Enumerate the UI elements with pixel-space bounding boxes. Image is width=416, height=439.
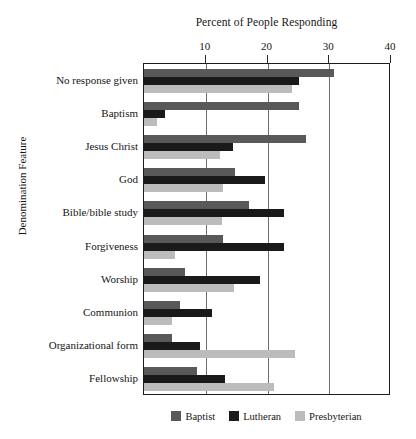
legend-swatch-icon <box>229 411 239 421</box>
x-tick-mark-20 <box>267 55 268 63</box>
bar-group <box>144 168 389 192</box>
bar-group <box>144 201 389 225</box>
bar-baptist <box>144 69 334 77</box>
bar-presbyterian <box>144 184 223 192</box>
plot-inner <box>144 64 389 394</box>
bar-chart-figure: Percent of People Responding 10203040 No… <box>0 0 416 439</box>
bar-baptist <box>144 168 235 176</box>
bar-baptist <box>144 367 197 375</box>
y-tick-label: No response given <box>0 74 138 86</box>
bar-lutheran <box>144 176 265 184</box>
bar-baptist <box>144 235 223 243</box>
bar-group <box>144 235 389 259</box>
bar-presbyterian <box>144 317 172 325</box>
y-axis-title: Denomination Feature <box>16 106 28 266</box>
bar-lutheran <box>144 209 284 217</box>
bar-group <box>144 102 389 126</box>
x-tick-mark-10 <box>205 55 206 63</box>
bar-baptist <box>144 334 172 342</box>
legend-entry-presbyterian[interactable]: Presbyterian <box>295 411 362 422</box>
bar-lutheran <box>144 375 225 383</box>
x-tick-label-10: 10 <box>199 40 210 52</box>
bar-group <box>144 268 389 292</box>
x-axis-tick-marks <box>0 55 416 63</box>
legend-label: Baptist <box>185 411 215 422</box>
x-tick-mark-30 <box>328 55 329 63</box>
bar-presbyterian <box>144 85 292 93</box>
y-tick-label: Organizational form <box>0 339 138 351</box>
bar-baptist <box>144 201 249 209</box>
x-tick-label-30: 30 <box>323 40 334 52</box>
bar-presbyterian <box>144 217 222 225</box>
bar-baptist <box>144 102 299 110</box>
legend-entry-baptist[interactable]: Baptist <box>171 411 215 422</box>
y-tick-label: Communion <box>0 306 138 318</box>
x-tick-mark-40 <box>390 55 391 63</box>
bar-baptist <box>144 135 306 143</box>
bar-baptist <box>144 301 180 309</box>
bar-presbyterian <box>144 251 175 259</box>
bar-group <box>144 69 389 93</box>
bar-lutheran <box>144 243 284 251</box>
bar-presbyterian <box>144 284 234 292</box>
legend-label: Presbyterian <box>309 411 362 422</box>
bar-lutheran <box>144 342 200 350</box>
legend-label: Lutheran <box>243 411 281 422</box>
x-tick-label-20: 20 <box>261 40 272 52</box>
y-tick-label: Worship <box>0 273 138 285</box>
bar-lutheran <box>144 309 212 317</box>
bar-lutheran <box>144 276 260 284</box>
bar-presbyterian <box>144 151 220 159</box>
bar-presbyterian <box>144 383 274 391</box>
x-tick-label-40: 40 <box>385 40 396 52</box>
chart-title: Percent of People Responding <box>143 16 390 28</box>
bar-group <box>144 367 389 391</box>
legend-swatch-icon <box>295 411 305 421</box>
bar-presbyterian <box>144 350 295 358</box>
bar-presbyterian <box>144 118 157 126</box>
bar-lutheran <box>144 77 299 85</box>
bar-lutheran <box>144 110 165 118</box>
bar-group <box>144 334 389 358</box>
legend-entry-lutheran[interactable]: Lutheran <box>229 411 281 422</box>
y-tick-label: Fellowship <box>0 372 138 384</box>
plot-area <box>143 63 390 395</box>
chart-legend: BaptistLutheranPresbyterian <box>143 408 390 424</box>
bar-group <box>144 301 389 325</box>
bar-baptist <box>144 268 185 276</box>
legend-swatch-icon <box>171 411 181 421</box>
bar-group <box>144 135 389 159</box>
bar-lutheran <box>144 143 233 151</box>
x-axis-tick-labels: 10203040 <box>0 40 416 54</box>
